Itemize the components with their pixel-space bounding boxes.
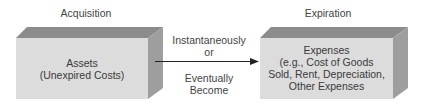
assets-box-top-face <box>16 27 163 38</box>
arrow-head-icon <box>250 58 259 65</box>
expenses-line-4: Other Expenses <box>260 80 393 92</box>
expenses-line-3: Sold, Rent, Depreciation, <box>260 68 393 80</box>
assets-subtitle: (Unexpired Costs) <box>16 69 148 81</box>
arrow-label-instantaneously: Instantaneously <box>166 34 252 46</box>
expenses-box-side-face <box>393 27 408 99</box>
expenses-line-2: (e.g., Cost of Goods <box>260 56 393 68</box>
arrow-label-become: Become <box>166 84 252 96</box>
arrow-label-above: Instantaneously or <box>166 34 252 58</box>
expenses-box-top-face <box>260 27 408 38</box>
assets-title: Assets <box>16 57 148 69</box>
arrow-label-eventually: Eventually <box>166 72 252 84</box>
arrow-label-or: or <box>166 46 252 58</box>
assets-box-side-face <box>148 27 163 99</box>
arrow-label-below: Eventually Become <box>166 72 252 96</box>
assets-box-label: Assets (Unexpired Costs) <box>16 57 148 81</box>
acquisition-heading: Acquisition <box>56 7 116 19</box>
transition-arrow <box>155 58 259 65</box>
expiration-heading: Expiration <box>298 7 358 19</box>
expenses-line-1: Expenses <box>260 44 393 56</box>
expenses-box-label: Expenses (e.g., Cost of Goods Sold, Rent… <box>260 44 393 92</box>
